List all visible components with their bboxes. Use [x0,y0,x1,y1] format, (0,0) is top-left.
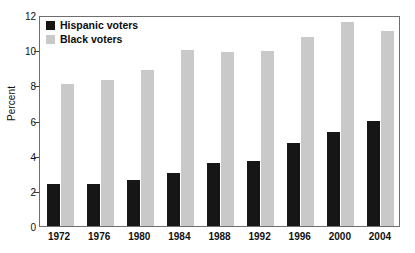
x-tick-label: 2004 [369,231,391,242]
legend-label-hispanic-voters: Hispanic voters [60,19,138,31]
bar-black-voters [381,31,394,226]
bar-black-voters [221,52,234,226]
y-axis-tick-labels: 024681012 [16,11,36,233]
x-axis-tick-labels: 197219761980198419881992199620002004 [39,231,400,247]
chart-legend: Hispanic voters Black voters [46,19,138,45]
y-tick-mark [34,51,39,52]
x-tick-label: 1980 [128,231,150,242]
x-tick-label: 1996 [289,231,311,242]
bar-black-voters [261,51,274,226]
x-tick-label: 1976 [88,231,110,242]
bar-hispanic-voters [127,180,140,226]
bar-black-voters [61,84,74,226]
x-tick-label: 1992 [248,231,270,242]
bar-black-voters [141,70,154,226]
bar-group [327,17,354,226]
legend-swatch-hispanic-voters [46,21,55,30]
legend-label-black-voters: Black voters [60,33,122,45]
x-tick-label: 1988 [208,231,230,242]
x-tick-label: 1972 [48,231,70,242]
bar-group [47,17,74,226]
bar-group [367,17,394,226]
bar-hispanic-voters [367,121,380,227]
bar-chart: Percent 024681012 1972197619801984198819… [0,0,415,253]
bar-hispanic-voters [327,132,340,226]
legend-item: Hispanic voters [46,19,138,31]
y-tick-label: 12 [25,11,36,22]
y-tick-label: 0 [30,222,36,233]
x-tick-label: 1984 [168,231,190,242]
bar-hispanic-voters [87,184,100,226]
legend-item: Black voters [46,33,138,45]
bar-group [247,17,274,226]
bar-group [207,17,234,226]
bar-hispanic-voters [247,161,260,226]
legend-swatch-black-voters [46,35,55,44]
bar-hispanic-voters [207,163,220,226]
y-tick-mark [34,122,39,123]
bar-black-voters [301,37,314,226]
bar-black-voters [101,80,114,226]
x-tick-label: 2000 [329,231,351,242]
plot-area [40,17,399,226]
y-tick-mark [34,157,39,158]
plot-frame [39,16,400,227]
bar-group [127,17,154,226]
bar-black-voters [181,50,194,226]
bar-group [287,17,314,226]
y-tick-mark [34,86,39,87]
y-tick-mark [34,192,39,193]
bar-hispanic-voters [287,143,300,226]
bar-group [167,17,194,226]
bar-hispanic-voters [167,173,180,226]
y-axis-title: Percent [6,69,17,139]
bar-group [87,17,114,226]
bar-black-voters [341,22,354,226]
bar-hispanic-voters [47,184,60,226]
